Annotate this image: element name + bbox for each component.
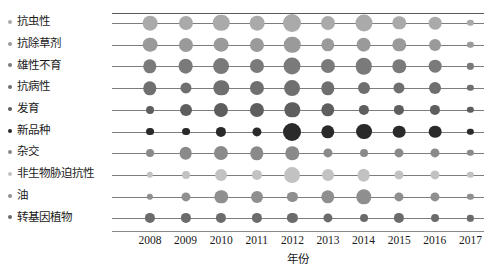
data-bubble: [429, 39, 441, 51]
data-bubble: [146, 128, 154, 136]
data-bubble: [178, 59, 193, 74]
data-bubble: [214, 190, 227, 203]
data-bubble: [250, 59, 264, 73]
data-bubble: [357, 169, 370, 182]
data-bubble: [214, 103, 228, 117]
data-bubble: [429, 82, 441, 94]
data-bubble: [430, 170, 439, 179]
category-label-row: 雄性不育: [0, 57, 112, 73]
data-bubble: [360, 214, 368, 222]
category-label-row: 抗除草剂: [0, 36, 112, 52]
series-color-bullet-icon: [8, 20, 12, 24]
data-bubble: [252, 127, 261, 136]
data-bubble: [321, 16, 335, 30]
data-bubble: [467, 42, 473, 48]
data-bubble: [287, 213, 297, 223]
data-bubble: [428, 125, 441, 138]
data-bubble: [395, 170, 404, 179]
data-bubble: [467, 85, 473, 91]
data-bubble: [146, 106, 154, 114]
data-bubble: [250, 103, 264, 117]
category-label: 抗病性: [17, 81, 50, 93]
category-label-row: 新品种: [0, 123, 112, 139]
data-bubble: [393, 125, 406, 138]
x-tick-label: 2009: [174, 234, 197, 246]
x-axis-title: 年份: [112, 250, 484, 266]
data-bubble: [321, 190, 334, 203]
x-axis-tick-labels: 2008200920102011201220132014201520162017: [112, 234, 491, 250]
data-bubble: [360, 149, 368, 157]
series-color-bullet-icon: [8, 150, 12, 154]
category-label-row: 发育: [0, 101, 112, 117]
series-color-bullet-icon: [8, 85, 12, 89]
data-bubble: [323, 214, 332, 223]
series-color-bullet-icon: [8, 172, 12, 176]
data-bubble: [394, 213, 404, 223]
data-bubble: [323, 149, 332, 158]
category-label: 雄性不育: [17, 60, 61, 72]
x-tick-label: 2016: [423, 234, 446, 246]
x-tick-label: 2015: [388, 234, 411, 246]
data-bubble: [355, 15, 372, 32]
data-bubble: [392, 60, 405, 73]
category-label: 转基因植物: [17, 212, 72, 224]
data-bubble: [356, 124, 372, 140]
data-bubble: [286, 146, 299, 159]
bubble-chart: 抗虫性抗除草剂雄性不育抗病性发育新品种杂交非生物胁迫抗性油转基因植物 20082…: [0, 0, 491, 272]
data-bubble: [392, 38, 405, 51]
data-bubble: [394, 83, 405, 94]
data-bubble: [284, 80, 300, 96]
data-bubble: [392, 16, 405, 29]
series-color-bullet-icon: [8, 129, 12, 133]
data-bubble: [283, 14, 301, 32]
data-bubble: [285, 102, 300, 117]
data-bubble: [467, 150, 473, 156]
data-bubble: [283, 123, 301, 141]
data-bubble: [213, 15, 229, 31]
data-bubble: [213, 58, 229, 74]
category-label: 新品种: [17, 125, 50, 137]
data-bubble: [356, 189, 371, 204]
data-bubble: [143, 16, 158, 31]
row-grid-line: [112, 218, 484, 219]
data-bubble: [251, 191, 263, 203]
data-bubble: [182, 128, 190, 136]
data-bubble: [321, 103, 334, 116]
data-bubble: [284, 36, 300, 52]
data-bubble: [147, 172, 153, 178]
data-bubble: [355, 58, 371, 74]
x-tick-label: 2011: [246, 234, 269, 246]
data-bubble: [430, 149, 439, 158]
data-bubble: [215, 169, 227, 181]
data-bubble: [181, 192, 190, 201]
data-bubble: [467, 215, 473, 221]
category-label: 杂交: [17, 146, 39, 158]
data-bubble: [143, 37, 158, 52]
data-bubble: [250, 146, 263, 159]
data-bubble: [321, 81, 334, 94]
data-bubble: [249, 16, 264, 31]
category-label-row: 非生物胁迫抗性: [0, 166, 112, 182]
category-label: 抗除草剂: [17, 38, 61, 50]
data-bubble: [252, 170, 262, 180]
data-bubble: [467, 107, 473, 113]
data-bubble: [356, 37, 371, 52]
data-bubble: [321, 125, 334, 138]
data-bubble: [467, 172, 473, 178]
plot-frame: [112, 13, 484, 232]
category-label: 非生物胁迫抗性: [17, 168, 94, 180]
data-bubble: [180, 104, 192, 116]
series-color-bullet-icon: [8, 63, 12, 67]
data-bubble: [287, 192, 297, 202]
data-bubble: [216, 126, 226, 136]
row-grid-line: [112, 197, 484, 198]
category-axis: 抗虫性抗除草剂雄性不育抗病性发育新品种杂交非生物胁迫抗性油转基因植物: [0, 0, 112, 272]
data-bubble: [395, 192, 404, 201]
data-bubble: [467, 20, 473, 26]
series-color-bullet-icon: [8, 42, 12, 46]
data-bubble: [214, 146, 228, 160]
category-label-row: 杂交: [0, 144, 112, 160]
x-tick-label: 2017: [459, 234, 482, 246]
data-bubble: [430, 192, 439, 201]
data-bubble: [430, 105, 440, 115]
